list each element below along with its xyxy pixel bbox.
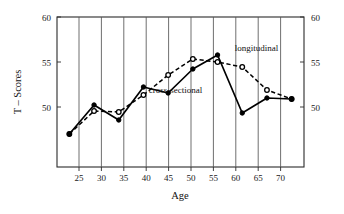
data-point <box>265 88 270 93</box>
data-point <box>240 111 244 115</box>
data-point <box>265 96 269 100</box>
data-point <box>92 109 97 114</box>
x-tick-60: 60 <box>231 173 241 183</box>
x-axis-ticks <box>79 167 281 171</box>
x-tick-40: 40 <box>142 173 152 183</box>
data-point <box>92 103 96 107</box>
x-tick-35: 35 <box>119 173 129 183</box>
data-point <box>141 85 145 89</box>
x-tick-70: 70 <box>276 173 286 183</box>
x-axis-tick-labels: 25 30 35 40 45 50 55 60 65 70 <box>75 173 286 183</box>
y-tick-left-60: 60 <box>42 13 52 23</box>
data-point <box>116 110 121 115</box>
x-axis-title: Age <box>171 190 189 201</box>
y-tick-right-55: 55 <box>311 58 321 68</box>
data-point <box>67 132 71 136</box>
data-point <box>166 73 171 78</box>
data-point <box>141 93 146 98</box>
x-tick-30: 30 <box>97 173 107 183</box>
y-tick-left-50: 50 <box>42 103 52 113</box>
annotation-cross-sectional: cross-sectional <box>149 85 203 95</box>
y-axis-tick-labels-left: 60 55 50 <box>42 13 52 113</box>
y-tick-right-50: 50 <box>311 103 321 113</box>
y-axis-title: T – Scores <box>12 70 23 115</box>
x-tick-50: 50 <box>187 173 197 183</box>
line-chart-svg: 60 55 50 60 55 50 25 30 35 40 45 50 55 6… <box>0 0 344 214</box>
y-axis-tick-labels-right: 60 55 50 <box>311 13 321 113</box>
annotation-longitudinal: longitudinal <box>235 43 279 53</box>
data-point <box>191 57 196 62</box>
x-tick-55: 55 <box>209 173 219 183</box>
y-tick-right-60: 60 <box>311 13 321 23</box>
x-tick-45: 45 <box>164 173 174 183</box>
data-point <box>117 118 121 122</box>
data-point <box>240 65 245 70</box>
x-tick-65: 65 <box>254 173 264 183</box>
y-tick-left-55: 55 <box>42 58 52 68</box>
data-point <box>289 97 293 101</box>
data-point <box>215 53 219 57</box>
chart-figure: 60 55 50 60 55 50 25 30 35 40 45 50 55 6… <box>0 0 344 214</box>
data-point <box>191 67 195 71</box>
x-tick-25: 25 <box>75 173 85 183</box>
